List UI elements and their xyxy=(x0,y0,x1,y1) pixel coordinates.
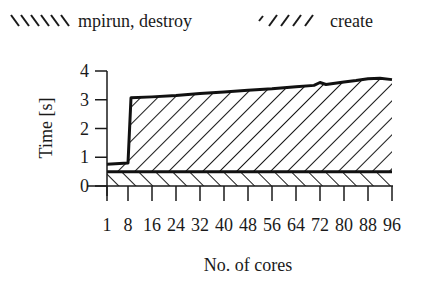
plot-areas xyxy=(107,78,392,186)
x-tick-label: 24 xyxy=(167,215,185,235)
stacked-area-chart: 01234181624324048566472808896 Time [s] N… xyxy=(0,0,422,284)
x-tick-label: 72 xyxy=(311,215,329,235)
area-mpirun-destroy xyxy=(107,78,392,171)
x-tick-label: 80 xyxy=(335,215,353,235)
x-tick-label: 56 xyxy=(263,215,281,235)
x-tick-label: 32 xyxy=(191,215,209,235)
x-tick-label: 8 xyxy=(124,215,133,235)
y-tick-label: 1 xyxy=(80,147,89,167)
x-tick-label: 96 xyxy=(383,215,401,235)
x-tick-label: 40 xyxy=(215,215,233,235)
x-tick-label: 48 xyxy=(239,215,257,235)
x-tick-label: 88 xyxy=(359,215,377,235)
y-tick-label: 3 xyxy=(80,90,89,110)
area-create xyxy=(107,172,392,186)
x-tick-label: 1 xyxy=(103,215,112,235)
y-tick-label: 2 xyxy=(80,119,89,139)
x-axis-title: No. of cores xyxy=(204,255,292,275)
y-tick-label: 4 xyxy=(80,61,89,81)
y-axis-title: Time [s] xyxy=(36,98,56,159)
x-tick-label: 64 xyxy=(287,215,305,235)
x-tick-label: 16 xyxy=(143,215,161,235)
